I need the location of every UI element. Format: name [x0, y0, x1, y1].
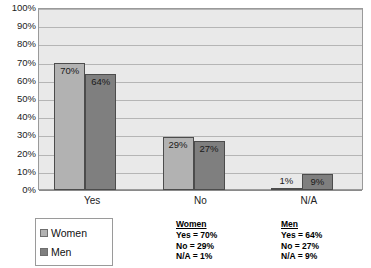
x-axis-label-no: No [146, 194, 254, 208]
bar-women-yes [54, 63, 85, 190]
bar-value-label: 1% [271, 175, 302, 186]
bars-layer: 70%64%29%27%1%9% [38, 8, 363, 190]
bar-chart: 100%90%80%70%60%50%40%30%20%10%0% 70%64%… [0, 0, 371, 268]
bar-value-label: 64% [85, 76, 116, 87]
y-axis-tick-label: 20% [0, 149, 36, 159]
legend-label-women: Women [51, 227, 87, 239]
legend-item-men: Men [40, 242, 112, 261]
y-axis-tick-label: 70% [0, 58, 36, 68]
y-axis: 100%90%80%70%60%50%40%30%20%10%0% [0, 8, 36, 190]
legend-swatch-men-icon [40, 248, 48, 256]
legend-label-men: Men [51, 246, 71, 258]
y-axis-tick-label: 80% [0, 39, 36, 49]
summary-men-line-yes: Yes = 64% [281, 230, 322, 241]
summary-men-heading: Men [281, 219, 322, 230]
x-axis: YesNoN/A [38, 194, 363, 212]
summary-women-heading: Women [176, 219, 217, 230]
summary-women-line-na: N/A = 1% [176, 251, 217, 262]
y-axis-tick-label: 10% [0, 167, 36, 177]
y-axis-tick-label: 90% [0, 21, 36, 31]
bar-value-label: 27% [194, 143, 225, 154]
gridline [39, 190, 362, 191]
y-axis-tick-label: 60% [0, 76, 36, 86]
y-axis-tick-label: 0% [0, 185, 36, 195]
summary-women: Women Yes = 70% No = 29% N/A = 1% [176, 219, 217, 262]
y-axis-tick-label: 50% [0, 94, 36, 104]
legend-swatch-women-icon [40, 229, 48, 237]
y-axis-tick-label: 30% [0, 130, 36, 140]
x-axis-label-na: N/A [255, 194, 363, 208]
legend-item-women: Women [40, 223, 112, 242]
bar-value-label: 9% [302, 176, 333, 187]
summary-men-line-na: N/A = 9% [281, 251, 322, 262]
bar-value-label: 70% [54, 65, 85, 76]
y-axis-tick-label: 40% [0, 112, 36, 122]
summary-women-line-yes: Yes = 70% [176, 230, 217, 241]
bar-men-yes [85, 74, 116, 190]
x-axis-label-yes: Yes [38, 194, 146, 208]
summary-men-line-no: No = 27% [281, 241, 322, 252]
chart-legend: Women Men [35, 218, 113, 266]
bar-value-label: 29% [163, 139, 194, 150]
bar-women-na [271, 188, 302, 190]
summary-men: Men Yes = 64% No = 27% N/A = 9% [281, 219, 322, 262]
y-axis-tick-label: 100% [0, 3, 36, 13]
summary-women-line-no: No = 29% [176, 241, 217, 252]
